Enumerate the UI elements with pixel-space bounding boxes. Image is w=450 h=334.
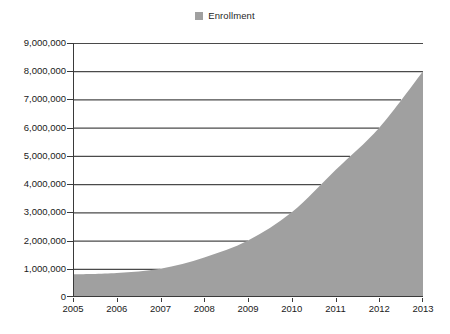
x-tick-mark-2007 [161,298,162,302]
x-tick-mark-2006 [117,298,118,302]
y-tick-label-6000000: 6,000,000 [0,123,66,133]
y-axis-tick-labels: 01,000,0002,000,0003,000,0004,000,0005,0… [0,43,66,297]
enrollment-area-chart: Enrollment 01,000,0002,000,0003,000,0004… [0,0,450,334]
y-tick-label-5000000: 5,000,000 [0,151,66,161]
y-tick-label-4000000: 4,000,000 [0,179,66,189]
legend-swatch-enrollment [195,12,203,20]
x-tick-mark-2008 [204,298,205,302]
y-tick-label-9000000: 9,000,000 [0,38,66,48]
x-tick-label-2008: 2008 [184,303,224,314]
x-axis-tick-labels: 200520062007200820092010201120122013 [73,303,423,319]
y-tick-label-8000000: 8,000,000 [0,66,66,76]
x-tick-label-2005: 2005 [53,303,93,314]
x-tick-label-2010: 2010 [272,303,312,314]
x-tick-label-2011: 2011 [316,303,356,314]
x-tick-label-2009: 2009 [228,303,268,314]
x-tick-label-2012: 2012 [359,303,399,314]
x-tick-label-2007: 2007 [141,303,181,314]
x-tick-mark-2011 [336,298,337,302]
y-tick-label-2000000: 2,000,000 [0,236,66,246]
y-tick-label-1000000: 1,000,000 [0,264,66,274]
x-tick-label-2006: 2006 [97,303,137,314]
x-tick-mark-2009 [248,298,249,302]
y-tick-label-3000000: 3,000,000 [0,207,66,217]
x-tick-mark-2005 [73,298,74,302]
y-tick-label-0: 0 [0,292,66,302]
x-tick-mark-2010 [292,298,293,302]
chart-legend: Enrollment [0,8,450,24]
plot-area [73,43,423,297]
legend-label-enrollment: Enrollment [208,11,254,21]
y-tick-label-7000000: 7,000,000 [0,94,66,104]
plot-svg [73,43,423,297]
x-tick-mark-2013 [422,298,423,302]
x-tick-label-2013: 2013 [403,303,443,314]
x-tick-mark-2012 [379,298,380,302]
